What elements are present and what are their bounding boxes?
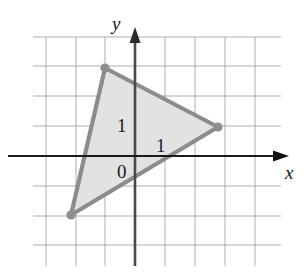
triangle-vertex-dot	[213, 122, 222, 131]
x-axis-label: x	[285, 163, 293, 182]
triangle-vertex-dot	[100, 63, 109, 72]
shaded-triangle	[66, 63, 222, 219]
y-axis-label: y	[112, 14, 120, 33]
triangle-region	[71, 68, 218, 215]
coordinate-plane-figure: y x 1 1 0	[0, 0, 306, 272]
x-axis-arrowhead	[273, 151, 289, 162]
triangle-vertex-dot	[66, 210, 75, 219]
origin-label: 0	[117, 162, 127, 181]
y-unit-label: 1	[117, 116, 127, 135]
x-unit-label: 1	[156, 136, 166, 155]
plot-canvas	[0, 0, 306, 272]
y-axis-arrowhead	[130, 27, 141, 43]
